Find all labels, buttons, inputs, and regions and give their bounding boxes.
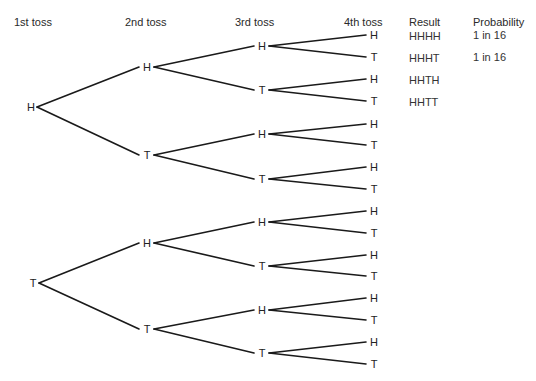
tree-node-2nd-toss: T [144,149,151,161]
tree-node-4th-toss: H [370,292,378,304]
tree-node-3rd-toss: H [258,304,266,316]
result-outcome: HHTT [409,96,438,108]
tree-node-4th-toss: H [370,336,378,348]
tree-node-1st-toss: T [30,277,37,289]
result-outcome: HHTH [409,74,440,86]
tree-node-3rd-toss: T [259,260,266,272]
tree-node-2nd-toss: T [144,323,151,335]
probability-tree-lines [0,0,536,381]
tree-node-4th-toss: H [370,73,378,85]
tree-node-3rd-toss: T [259,347,266,359]
tree-node-4th-toss: H [370,249,378,261]
tree-node-3rd-toss: H [258,40,266,52]
header-2nd-toss: 2nd toss [125,16,167,28]
tree-node-4th-toss: T [371,51,378,63]
tree-node-4th-toss: T [371,270,378,282]
result-probability: 1 in 16 [473,51,506,63]
tree-node-3rd-toss: H [258,128,266,140]
header-probability: Probability [473,16,524,28]
header-3rd-toss: 3rd toss [235,16,274,28]
tree-node-4th-toss: H [370,29,378,41]
tree-node-4th-toss: H [370,118,378,130]
tree-node-4th-toss: T [371,183,378,195]
header-1st-toss: 1st toss [14,16,52,28]
header-result: Result [409,16,440,28]
result-probability: 1 in 16 [473,29,506,41]
tree-node-4th-toss: H [370,205,378,217]
tree-node-1st-toss: H [27,101,35,113]
tree-node-4th-toss: T [371,314,378,326]
tree-node-4th-toss: T [371,139,378,151]
tree-node-3rd-toss: H [258,216,266,228]
tree-node-3rd-toss: T [259,173,266,185]
tree-node-3rd-toss: T [259,84,266,96]
tree-node-4th-toss: H [370,161,378,173]
tree-node-2nd-toss: H [143,61,151,73]
tree-node-2nd-toss: H [143,237,151,249]
result-outcome: HHHT [409,52,440,64]
tree-node-4th-toss: T [371,227,378,239]
header-4th-toss: 4th toss [344,16,383,28]
tree-node-4th-toss: T [371,358,378,370]
tree-node-4th-toss: T [371,95,378,107]
result-outcome: HHHH [409,30,441,42]
